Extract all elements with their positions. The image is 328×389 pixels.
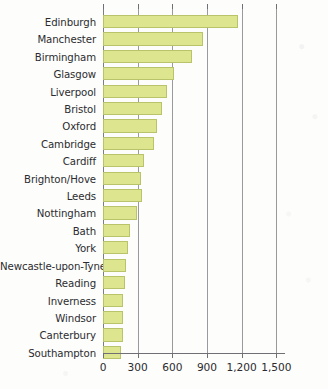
category-label: Cambridge [0,136,100,153]
bar-series [103,14,303,362]
category-label: Glasgow [0,66,100,83]
x-tick-top [242,4,243,9]
x-axis-tick [276,353,277,358]
x-axis-tick-label: 300 [128,361,148,373]
category-label: Leeds [0,188,100,205]
x-axis-tick-label: 0 [100,361,107,373]
bar-row [103,240,303,257]
bar [103,67,174,80]
x-tick-top [172,4,173,9]
x-tick-top [103,4,104,9]
x-tick-top [276,4,277,9]
x-axis-tick-label: 1,500 [261,361,291,373]
category-label: Manchester [0,31,100,48]
category-label: York [0,240,100,257]
x-axis-line [103,353,285,354]
bar-row [103,66,303,83]
bar-row [103,293,303,310]
x-axis-tick [138,353,139,358]
bar-row [103,171,303,188]
bar [103,15,238,28]
x-axis-tick-label: 1,200 [226,361,256,373]
bar-row [103,136,303,153]
bar [103,32,203,45]
bar [103,154,144,167]
x-axis-tick [103,353,104,358]
bar [103,85,167,98]
bar-row [103,327,303,344]
bar [103,137,154,150]
bar [103,102,162,115]
x-axis-tick [207,353,208,358]
bar [103,276,125,289]
category-label: Liverpool [0,84,100,101]
bar [103,328,123,341]
bar-row [103,310,303,327]
category-label: Cardiff [0,153,100,170]
bar [103,241,128,254]
category-axis-labels: EdinburghManchesterBirminghamGlasgowLive… [0,14,100,362]
bar-row [103,84,303,101]
bar [103,172,141,185]
category-label: Edinburgh [0,14,100,31]
category-label: Bath [0,223,100,240]
category-label: Inverness [0,293,100,310]
bar [103,294,123,307]
x-axis-tick-label: 900 [197,361,217,373]
category-label: Windsor [0,310,100,327]
x-axis-tick [172,353,173,358]
category-label: Southampton [0,345,100,362]
bar-row [103,31,303,48]
category-label: Birmingham [0,49,100,66]
x-tick-top [207,4,208,9]
bar-row [103,258,303,275]
category-label: Newcastle-upon-Tyne [0,258,100,275]
horizontal-bar-chart: EdinburghManchesterBirminghamGlasgowLive… [0,0,328,389]
bar-row [103,223,303,240]
bar-row [103,14,303,31]
bar [103,259,126,272]
bar-row [103,275,303,292]
category-label: Oxford [0,118,100,135]
bar-row [103,153,303,170]
bar-row [103,118,303,135]
bar [103,189,142,202]
bar-row [103,101,303,118]
category-label: Bristol [0,101,100,118]
bar-row [103,188,303,205]
category-label: Nottingham [0,205,100,222]
bar-row [103,49,303,66]
bar [103,224,130,237]
category-label: Reading [0,275,100,292]
x-axis-tick-label: 600 [162,361,182,373]
category-label: Brighton/Hove [0,171,100,188]
x-axis-tick [242,353,243,358]
bar [103,50,192,63]
bar-row [103,205,303,222]
bar [103,119,157,132]
x-tick-top [138,4,139,9]
bar [103,206,137,219]
category-label: Canterbury [0,327,100,344]
bar [103,311,123,324]
